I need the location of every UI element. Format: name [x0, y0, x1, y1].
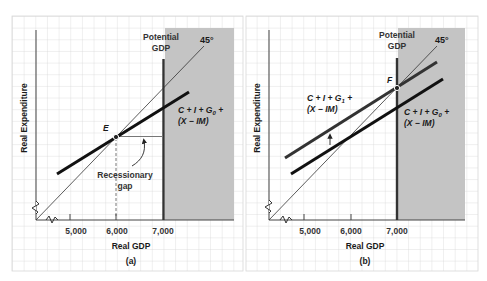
- panel-a-45-degree-label: 45°: [200, 35, 214, 45]
- panel-a-gap-label-line2: gap: [117, 181, 132, 191]
- panel-b: Potential GDP 45° F C + I + G1 + (X − IM…: [246, 16, 478, 271]
- panel-b-point-f-marker: [394, 85, 399, 90]
- panel-a-potential-label-line1: Potential: [143, 32, 179, 42]
- panel-a-x-axis-label: Real GDP: [112, 241, 151, 251]
- panel-b-tick-label-5000: 5,000: [299, 226, 321, 236]
- panel-b-g0-label-line1: C + I + G0 +: [404, 107, 449, 118]
- panel-a-ae-label-line2: (X − IM): [178, 116, 209, 126]
- panel-b-g0-label-line2: (X − IM): [404, 118, 435, 128]
- panel-b-tick-label-6000: 6,000: [340, 226, 362, 236]
- panel-a-y-axis-label: Real Expenditure: [19, 83, 29, 153]
- panel-b-45-degree-label: 45°: [435, 35, 449, 45]
- panel-b-point-f-label: F: [387, 75, 393, 85]
- panel-a-caption: (a): [126, 256, 137, 266]
- panel-a-tick-label-5000: 5,000: [65, 226, 87, 236]
- panel-a-tick-label-6000: 6,000: [106, 226, 128, 236]
- panel-b-potential-label-line1: Potential: [379, 30, 415, 40]
- panel-a-gap-label-line1: Recessionary: [97, 170, 153, 180]
- panel-a-point-e-label: E: [103, 123, 109, 133]
- panel-a-potential-label-line2: GDP: [152, 43, 171, 53]
- panel-b-g1-label-line1: C + I + G1 +: [307, 93, 352, 104]
- panel-a-tick-label-7000: 7,000: [152, 226, 174, 236]
- figure-canvas: Potential GDP 45° C + I + G0 + (X − IM) …: [0, 0, 487, 281]
- panel-b-y-axis-label: Real Expenditure: [252, 83, 262, 153]
- panel-a: Potential GDP 45° C + I + G0 + (X − IM) …: [12, 16, 243, 271]
- panel-a-point-e-marker: [113, 134, 118, 139]
- panel-a-ae-label-line1: C + I + G0 +: [178, 105, 223, 116]
- panel-b-x-axis-label: Real GDP: [346, 241, 385, 251]
- panel-b-potential-label-line2: GDP: [388, 41, 407, 51]
- panel-b-caption: (b): [360, 256, 371, 266]
- panel-b-g1-label-line2: (X − IM): [307, 104, 338, 114]
- panel-b-tick-label-7000: 7,000: [386, 226, 408, 236]
